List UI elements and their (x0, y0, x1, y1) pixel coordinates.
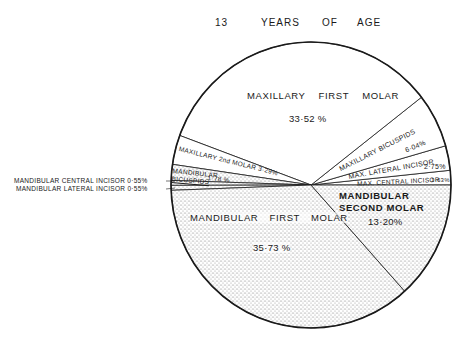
pct-max-first-molar: 33·52 % (289, 113, 326, 124)
pct-max-lateral-incisor: 2·75% (424, 163, 446, 170)
label-mand-second-molar-line2: SECOND MOLAR (339, 202, 424, 213)
label-mand-central-incisor: MANDIBULAR CENTRAL INCISOR 0·55% (14, 177, 148, 184)
label-mand-lateral-incisor: MANDIBULAR LATERAL INCISOR 0·55% (16, 185, 148, 192)
title-word-age: AGE (357, 17, 381, 28)
label-mand-first-molar: MANDIBULAR FIRST MOLAR (190, 212, 348, 223)
pct-max-central-incisor: 1·63% (431, 177, 450, 183)
pie-slices (171, 42, 451, 328)
label-max-first-molar: MAXILLARY FIRST MOLAR (247, 90, 399, 101)
label-mand-second-molar-line1: MANDIBULAR (339, 190, 409, 201)
title-word-13: 13 (215, 17, 228, 28)
title-word-years: YEARS (261, 17, 300, 28)
pct-mand-second-molar: 13·20% (368, 216, 403, 227)
title-word-of: OF (322, 17, 338, 28)
pct-mand-first-molar: 35·73 % (253, 242, 290, 253)
